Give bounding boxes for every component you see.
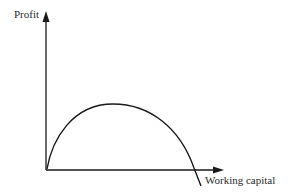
x-axis-arrow-icon [213,167,224,174]
profit-working-capital-diagram: Profit Working capital [0,0,292,196]
x-axis-label: Working capital [205,174,275,186]
diagram-canvas [0,0,292,196]
profit-curve [47,104,201,186]
y-axis-label: Profit [14,8,39,20]
y-axis-arrow-icon [43,11,50,22]
